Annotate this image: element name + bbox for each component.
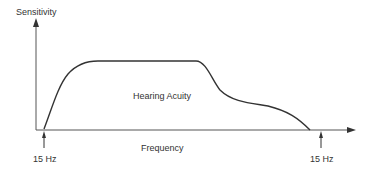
y-axis-label: Sensitivity — [16, 7, 57, 17]
x-axis-arrowhead — [347, 127, 356, 133]
x-axis-label: Frequency — [141, 143, 184, 153]
curve-label: Hearing Acuity — [133, 91, 191, 101]
left-marker-arrowhead — [42, 131, 46, 138]
y-axis-arrowhead — [33, 18, 39, 27]
right-marker-arrowhead — [319, 131, 323, 138]
right-marker-label: 15 Hz — [310, 154, 334, 164]
left-marker-label: 15 Hz — [33, 154, 57, 164]
